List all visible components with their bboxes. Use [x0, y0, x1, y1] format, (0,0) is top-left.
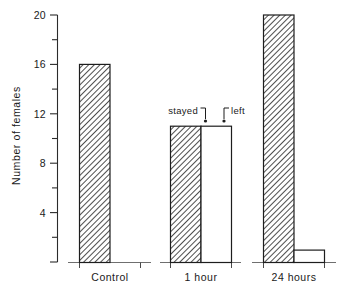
category-label-control: Control	[91, 271, 128, 283]
annotation-stayed-label: stayed	[168, 105, 198, 116]
bar-24-hours-stayed	[264, 15, 295, 263]
annotation-left: left	[222, 105, 245, 123]
bar-1-hour-left	[201, 126, 232, 262]
y-tick-label-8: 8	[40, 157, 46, 169]
y-tick-label-16: 16	[34, 58, 46, 70]
chart-svg: 20 16 12 8 4 Number of females Control	[0, 0, 344, 293]
category-label-1-hour: 1 hour	[185, 271, 218, 283]
y-tick-label-12: 12	[34, 108, 46, 120]
bar-24-hours-left	[294, 250, 325, 262]
category-label-24-hours: 24 hours	[272, 271, 317, 283]
annotation-stayed-leader	[201, 108, 206, 119]
y-tick-label-4: 4	[40, 207, 46, 219]
annotation-stayed-pointer	[204, 119, 207, 122]
y-axis: 20 16 12 8 4 Number of females	[10, 9, 58, 262]
y-axis-title: Number of females	[10, 86, 22, 185]
bar-control-stayed	[80, 64, 111, 262]
bar-chart-figure: 20 16 12 8 4 Number of females Control	[0, 0, 344, 293]
bar-group-24-hours: 24 hours	[252, 15, 336, 283]
bar-1-hour-stayed	[171, 126, 202, 262]
annotation-left-leader	[224, 108, 229, 119]
annotation-left-pointer	[222, 119, 225, 122]
annotation-stayed: stayed	[168, 105, 207, 123]
bar-group-1-hour: 1 hour	[160, 126, 241, 283]
y-tick-label-20: 20	[34, 9, 46, 21]
annotation-left-label: left	[231, 105, 245, 116]
bar-group-control: Control	[68, 64, 151, 283]
